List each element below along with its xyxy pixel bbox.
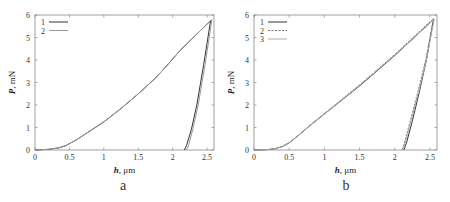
chart-panel-b: 00.511.522.50123456h, μmP, mN123 b — [225, 0, 450, 202]
unloading-curve — [184, 21, 210, 150]
x-tick-label: 0 — [33, 153, 37, 162]
x-tick-label: 0.5 — [64, 153, 74, 162]
axes-frame — [35, 15, 214, 150]
legend-label: 3 — [260, 35, 264, 44]
y-tick-label: 6 — [26, 11, 30, 20]
series-2 — [35, 20, 212, 151]
x-axis-label: h, μm — [114, 165, 135, 175]
y-tick-label: 4 — [26, 56, 30, 65]
y-tick-label: 3 — [26, 79, 30, 88]
x-tick-label: 1 — [102, 153, 106, 162]
plot-a: 00.511.522.50123456h, μmP, mN12 — [0, 0, 225, 202]
plot-b: 00.511.522.50123456h, μmP, mN123 — [225, 0, 450, 202]
y-axis-label: P, mN — [226, 70, 236, 94]
unloading-curve — [402, 18, 434, 150]
y-tick-label: 5 — [26, 34, 30, 43]
x-tick-label: 1 — [322, 153, 326, 162]
y-tick-label: 1 — [26, 124, 30, 133]
panel-caption-b: b — [336, 178, 356, 194]
y-tick-label: 5 — [245, 34, 249, 43]
y-tick-label: 2 — [245, 101, 249, 110]
y-tick-label: 6 — [245, 11, 249, 20]
x-tick-label: 2 — [393, 153, 397, 162]
x-tick-label: 2 — [171, 153, 175, 162]
y-axis-label: P, mN — [7, 70, 17, 94]
panel-caption-a: a — [113, 178, 133, 194]
legend-label: 2 — [41, 27, 45, 36]
loading-curve — [35, 21, 211, 150]
series-1 — [35, 21, 211, 150]
x-tick-label: 0 — [252, 153, 256, 162]
x-tick-label: 1.5 — [355, 153, 365, 162]
loading-curve — [254, 18, 434, 150]
x-tick-label: 1.5 — [133, 153, 143, 162]
chart-panel-a: 00.511.522.50123456h, μmP, mN12 a — [0, 0, 225, 202]
x-tick-label: 2.5 — [425, 153, 435, 162]
y-tick-label: 0 — [245, 146, 249, 155]
y-tick-label: 1 — [245, 124, 249, 133]
y-tick-label: 4 — [245, 56, 249, 65]
unloading-curve — [403, 19, 435, 150]
loading-curve — [35, 20, 212, 151]
series-2 — [254, 18, 434, 150]
y-tick-label: 0 — [26, 146, 30, 155]
y-tick-label: 3 — [245, 79, 249, 88]
x-axis-label: h, μm — [335, 165, 356, 175]
x-tick-label: 0.5 — [284, 153, 294, 162]
x-tick-label: 2.5 — [202, 153, 212, 162]
y-tick-label: 2 — [26, 101, 30, 110]
